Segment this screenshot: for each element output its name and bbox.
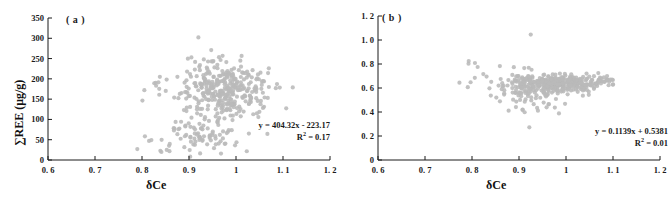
chart-panel-a: ( a ) ∑REE (μg/g) δCe y = 404.32x - 223.… — [0, 0, 336, 201]
y-tick-label: 0. 4 — [348, 107, 374, 117]
panel-label-a: ( a ) — [66, 14, 85, 25]
regression-equation-a: y = 404.32x - 223.17 — [190, 119, 330, 131]
x-tick-label: 0. 8 — [466, 165, 479, 175]
scatter-plot-b — [336, 0, 672, 201]
y-tick-label: 200 — [18, 74, 44, 84]
x-tick-label: 1 — [234, 165, 238, 175]
x-tick-label: 0. 7 — [419, 165, 432, 175]
x-tick-label: 1. 2 — [324, 165, 337, 175]
y-tick-label: 100 — [18, 114, 44, 124]
chart-panel-b: ( b ) δCe y = 0.1139x + 0.5381 R2 = 0.01… — [336, 0, 672, 201]
y-tick-label: 1. 2 — [348, 11, 374, 21]
y-tick-label: 350 — [18, 13, 44, 23]
x-tick-label: 0. 7 — [89, 165, 102, 175]
x-tick-label: 1 — [564, 165, 568, 175]
y-tick-label: 0. 6 — [348, 83, 374, 93]
r-squared-a: R2 = 0.17 — [190, 131, 330, 143]
x-tick-label: 0. 6 — [372, 165, 385, 175]
y-tick-label: 150 — [18, 94, 44, 104]
regression-annotation-a: y = 404.32x - 223.17 R2 = 0.17 — [190, 119, 330, 143]
y-tick-label: 250 — [18, 54, 44, 64]
y-tick-label: 0 — [18, 155, 44, 165]
figure-root: ( a ) ∑REE (μg/g) δCe y = 404.32x - 223.… — [0, 0, 672, 201]
y-tick-label: 0. 2 — [348, 131, 374, 141]
x-tick-label: 0. 9 — [513, 165, 526, 175]
y-tick-label: 1. 0 — [348, 35, 374, 45]
x-tick-label: 1. 1 — [607, 165, 620, 175]
x-tick-label: 0. 6 — [42, 165, 55, 175]
data-points — [457, 33, 615, 130]
panel-label-b: ( b ) — [382, 12, 402, 23]
x-tick-label: 1. 1 — [277, 165, 290, 175]
regression-annotation-b: y = 0.1139x + 0.5381 R2 = 0.01 — [528, 125, 668, 149]
x-axis-title-b: δCe — [486, 178, 506, 193]
x-axis-title-a: δCe — [146, 178, 166, 193]
y-tick-label: 0. 8 — [348, 59, 374, 69]
y-tick-label: 300 — [18, 33, 44, 43]
r-squared-b: R2 = 0.01 — [528, 137, 668, 149]
x-tick-label: 1. 2 — [654, 165, 667, 175]
x-tick-label: 0. 9 — [183, 165, 196, 175]
x-tick-label: 0. 8 — [136, 165, 149, 175]
y-tick-label: 50 — [18, 135, 44, 145]
y-tick-label: 0 — [348, 155, 374, 165]
regression-equation-b: y = 0.1139x + 0.5381 — [528, 125, 668, 137]
